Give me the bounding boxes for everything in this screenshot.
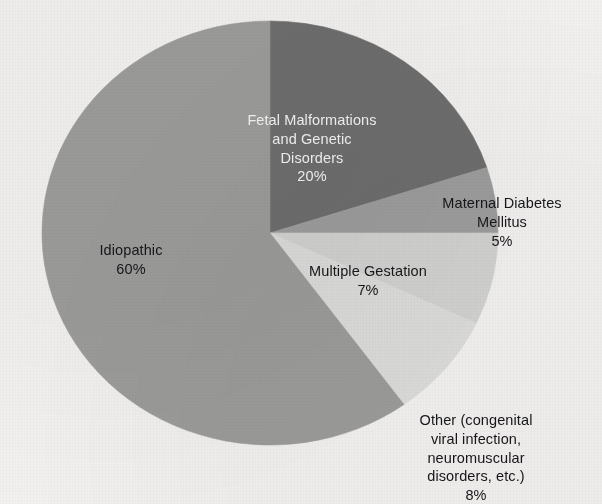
slice-percent: 20% (228, 167, 396, 186)
slice-label-text: Fetal Malformations and Genetic Disorder… (247, 112, 376, 166)
slice-label-text: Maternal Diabetes Mellitus (442, 195, 561, 230)
slice-label-text: Other (congenital viral infection, neuro… (420, 412, 533, 485)
slice-label-text: Idiopathic (99, 242, 162, 258)
slice-label-multiple-gestation: Multiple Gestation 7% (288, 243, 448, 318)
slice-label-idiopathic: Idiopathic 60% (66, 222, 196, 297)
slice-label-text: Multiple Gestation (309, 263, 427, 279)
slice-percent: 60% (66, 260, 196, 279)
slice-label-fetal-malformations: Fetal Malformations and Genetic Disorder… (228, 92, 396, 205)
slice-percent: 8% (374, 486, 578, 504)
slice-label-other: Other (congenital viral infection, neuro… (374, 392, 578, 504)
pie-chart-figure: Fetal Malformations and Genetic Disorder… (0, 0, 602, 504)
slice-percent: 7% (288, 281, 448, 300)
